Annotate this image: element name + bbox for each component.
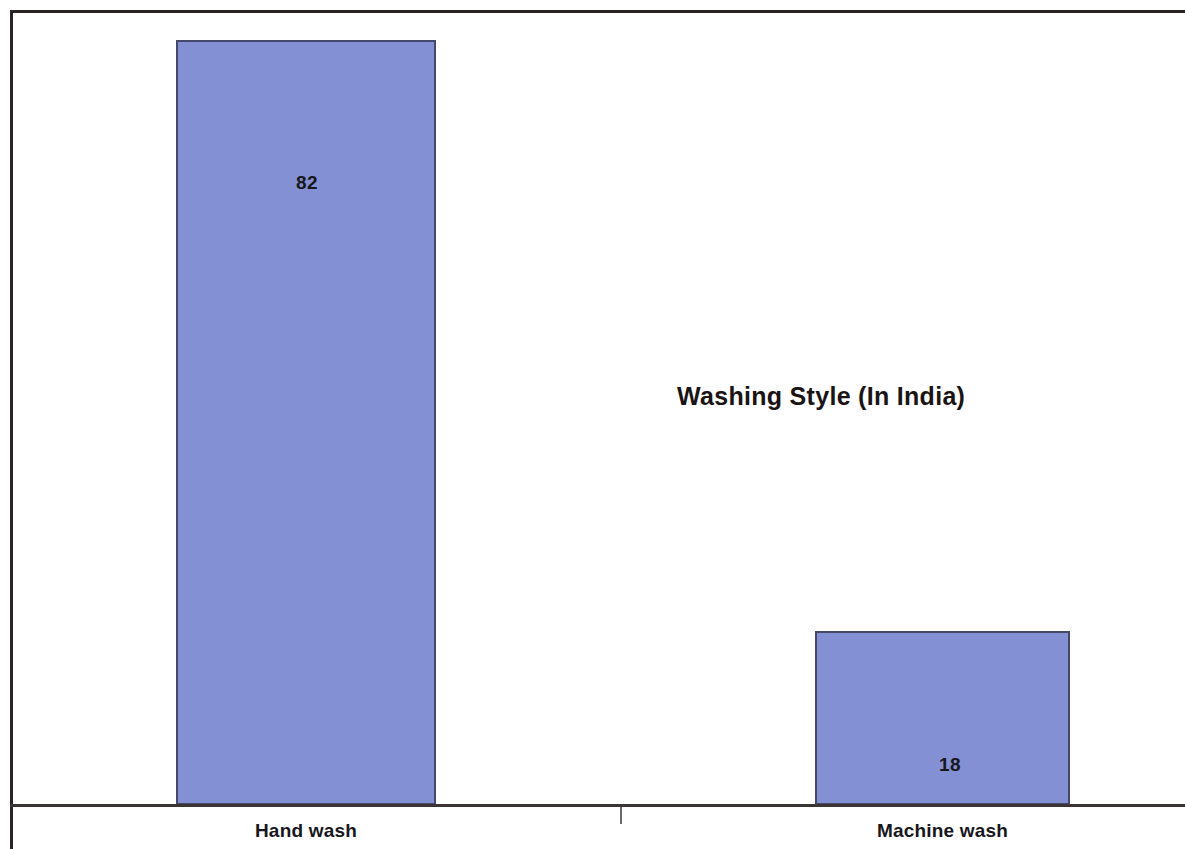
bar-value-label-machine-wash: 18 (890, 754, 1010, 776)
bar-value-label-hand-wash: 82 (247, 172, 367, 194)
plot-area: 82 18 Washing Style (In India) (13, 13, 1185, 805)
bar-chart-figure: 82 18 Washing Style (In India) Hand wash… (0, 0, 1185, 849)
bar-hand-wash (176, 40, 436, 805)
bar-machine-wash (815, 631, 1070, 805)
x-axis-label-hand-wash: Hand wash (176, 820, 436, 842)
x-axis-tick-mark (620, 807, 622, 824)
x-axis-label-machine-wash: Machine wash (815, 820, 1070, 842)
chart-title: Washing Style (In India) (677, 382, 965, 411)
x-axis-line (10, 804, 1185, 807)
